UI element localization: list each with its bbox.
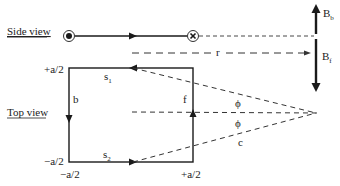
bottom-right-coord: +a/2 [181,168,201,180]
c-label: c [238,136,243,148]
f-segment-label: f [183,93,187,105]
r-label: r [216,46,220,58]
side-view-arrow-icon [129,33,137,40]
current-in-icon [188,31,199,42]
bottom-left-coord: −a/2 [60,168,80,180]
b-front-arrow-icon [312,83,321,92]
b-back-label: Bb [323,7,334,22]
current-out-icon [64,31,75,42]
b-arrow-icon [66,115,73,123]
f-arrow-icon [190,109,197,117]
top-view-label: Top view [7,106,48,118]
b-front-label: Bf [322,50,332,65]
upper-dashed-line [133,68,316,113]
r-arrow-icon [304,51,311,56]
diagram-canvas: Side view r Bb Bf Top view s1 s2 b f +a/… [0,0,340,186]
phi-upper-label: ϕ [235,97,241,109]
b-segment-label: b [73,93,79,105]
lower-dashed-line [133,113,316,162]
s2-label: s2 [103,148,111,163]
left-top-coord: +a/2 [44,63,64,75]
s1-label: s1 [104,70,112,85]
b-back-arrow-icon [312,4,321,13]
middle-dashed-line [132,112,318,113]
side-view-label: Side view [7,25,51,37]
current-loop [69,68,193,162]
phi-lower-label: ϕ [235,117,241,129]
left-bottom-coord: −a/2 [44,155,64,167]
